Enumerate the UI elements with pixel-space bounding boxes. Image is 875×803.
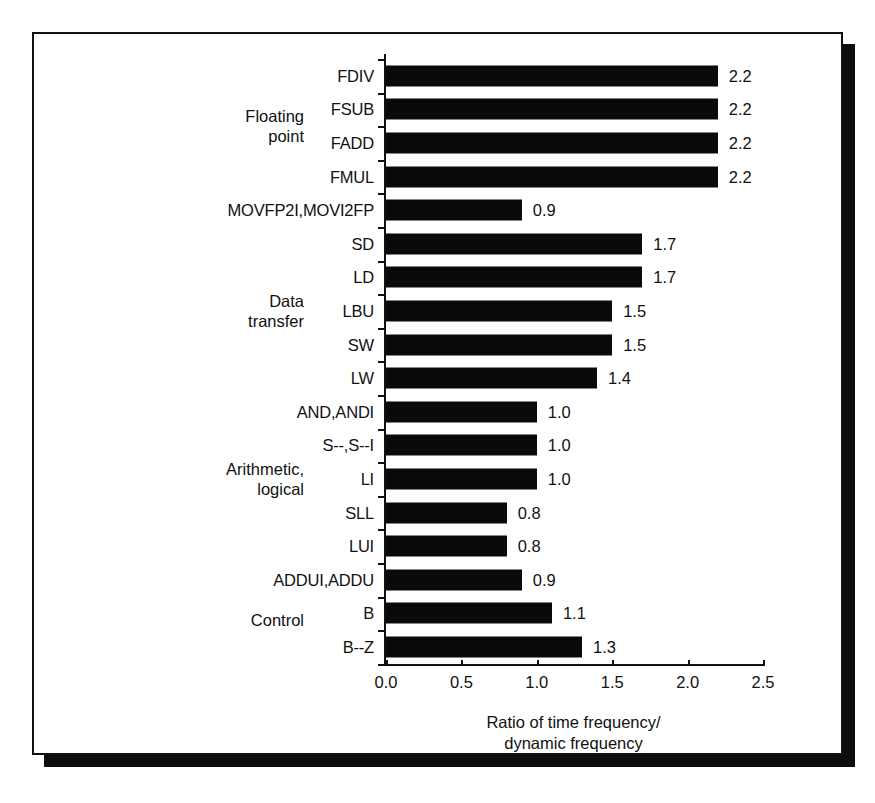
- bar-category-label: FADD: [331, 133, 374, 152]
- bar: [386, 166, 718, 187]
- group-label: Data transfer: [134, 291, 304, 331]
- x-axis-tick-label: 0.5: [450, 673, 473, 692]
- bar-value-label: 0.9: [533, 570, 556, 589]
- x-axis-tick-label: 1.5: [601, 673, 624, 692]
- bar: [386, 200, 522, 221]
- bar-value-label: 1.0: [548, 402, 571, 421]
- bar: [386, 132, 718, 153]
- bar-category-label: LBU: [343, 301, 375, 320]
- bar-value-label: 2.2: [729, 133, 752, 152]
- bar: [386, 233, 642, 254]
- bar-row: FMUL2.2: [34, 160, 845, 194]
- chart-plot-area: FDIV2.2FSUB2.2FADD2.2FMUL2.2MOVFP2I,MOVI…: [34, 34, 845, 757]
- bar-category-label: B--Z: [343, 637, 374, 656]
- bar: [386, 368, 597, 389]
- bar-row: LW1.4: [34, 361, 845, 395]
- bar-value-label: 2.2: [729, 167, 752, 186]
- bar-row: AND,ANDI1.0: [34, 395, 845, 429]
- bar-row: SW1.5: [34, 328, 845, 362]
- bar: [386, 99, 718, 120]
- bar-value-label: 1.7: [653, 234, 676, 253]
- x-axis-tick-label: 2.5: [752, 673, 775, 692]
- bar: [386, 334, 612, 355]
- bar-row: SD1.7: [34, 227, 845, 261]
- x-axis-line: [384, 664, 763, 666]
- bar: [386, 435, 537, 456]
- bar-row: S--,S--I1.0: [34, 429, 845, 463]
- bar-row: FDIV2.2: [34, 59, 845, 93]
- x-axis-tick-label: 1.0: [525, 673, 548, 692]
- bar-category-label: S--,S--I: [322, 436, 374, 455]
- bar-row: ADDUI,ADDU0.9: [34, 563, 845, 597]
- x-axis-title: Ratio of time frequency/ dynamic frequen…: [384, 712, 763, 754]
- bar-value-label: 1.0: [548, 436, 571, 455]
- bar: [386, 569, 522, 590]
- bar: [386, 502, 507, 523]
- bar-value-label: 1.1: [563, 604, 586, 623]
- figure-frame: FDIV2.2FSUB2.2FADD2.2FMUL2.2MOVFP2I,MOVI…: [32, 32, 843, 755]
- bar-category-label: FSUB: [331, 100, 374, 119]
- bar-value-label: 2.2: [729, 66, 752, 85]
- bar-value-label: 0.8: [518, 503, 541, 522]
- x-axis-tick-label: 2.0: [676, 673, 699, 692]
- bar-category-label: FDIV: [337, 66, 374, 85]
- bar: [386, 267, 642, 288]
- bar-value-label: 1.3: [593, 637, 616, 656]
- bar-row: B--Z1.3: [34, 630, 845, 664]
- bar-category-label: B: [363, 604, 374, 623]
- group-label: Control: [134, 610, 304, 630]
- bar-value-label: 0.9: [533, 201, 556, 220]
- bar: [386, 300, 612, 321]
- bar: [386, 401, 537, 422]
- bar-category-label: LW: [351, 369, 374, 388]
- group-label: Floating point: [134, 106, 304, 146]
- x-axis-tick-label: 0.0: [375, 673, 398, 692]
- group-label: Arithmetic, logical: [134, 459, 304, 499]
- bar-category-label: FMUL: [330, 167, 374, 186]
- bar-category-label: AND,ANDI: [297, 402, 374, 421]
- bar-category-label: MOVFP2I,MOVI2FP: [228, 201, 374, 220]
- bar-category-label: ADDUI,ADDU: [273, 570, 374, 589]
- bar-value-label: 1.0: [548, 469, 571, 488]
- bar-category-label: SLL: [345, 503, 374, 522]
- bar-category-label: SW: [348, 335, 374, 354]
- bar-value-label: 1.5: [623, 335, 646, 354]
- bar: [386, 603, 552, 624]
- bar-category-label: SD: [351, 234, 374, 253]
- bar-category-label: LI: [361, 469, 374, 488]
- bar-row: MOVFP2I,MOVI2FP0.9: [34, 193, 845, 227]
- bar-row: LD1.7: [34, 261, 845, 295]
- bar-row: LUI0.8: [34, 529, 845, 563]
- bar: [386, 536, 507, 557]
- bar-value-label: 0.8: [518, 537, 541, 556]
- bar-value-label: 1.5: [623, 301, 646, 320]
- bar-row: SLL0.8: [34, 496, 845, 530]
- y-axis-tick: [378, 664, 386, 666]
- bar-value-label: 2.2: [729, 100, 752, 119]
- bar: [386, 65, 718, 86]
- bar: [386, 468, 537, 489]
- bar-value-label: 1.4: [608, 369, 631, 388]
- bar-value-label: 1.7: [653, 268, 676, 287]
- bar: [386, 636, 582, 657]
- bar-category-label: LD: [353, 268, 374, 287]
- bar-category-label: LUI: [349, 537, 374, 556]
